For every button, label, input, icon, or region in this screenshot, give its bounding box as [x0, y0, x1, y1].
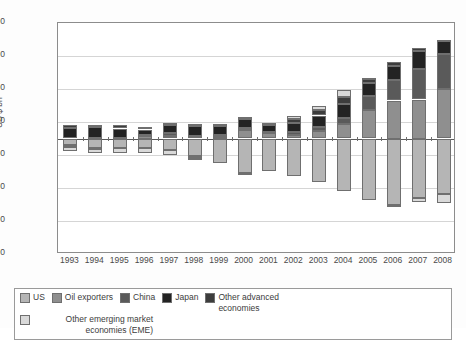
bar-segment: [262, 132, 276, 134]
legend-item[interactable]: Japan: [162, 292, 198, 303]
bar-segment: [387, 66, 401, 80]
bar-segment: [88, 149, 102, 154]
bar-group[interactable]: [88, 23, 102, 252]
bar-segment: [312, 131, 326, 139]
bar-segment: [188, 124, 202, 127]
bar-group[interactable]: [188, 23, 202, 252]
bar-segment: [312, 127, 326, 131]
bar-segment: [238, 139, 252, 173]
bar-segment: [387, 101, 401, 139]
bar-segment: [213, 124, 227, 126]
legend-swatch-icon: [20, 315, 30, 325]
plot-area: [57, 22, 455, 253]
bar-segment: [362, 83, 376, 97]
x-tick-mark: [133, 137, 134, 141]
x-tick-mark: [431, 137, 432, 141]
bar-group[interactable]: [387, 23, 401, 252]
y-tick-label: 1,000: [0, 49, 5, 59]
y-tick-label: -1,000: [0, 214, 5, 224]
bar-segment: [262, 125, 276, 132]
bar-segment: [387, 205, 401, 207]
bar-segment: [63, 128, 77, 139]
bar-group[interactable]: [437, 23, 451, 252]
x-tick-mark: [207, 137, 208, 141]
x-tick-label: 2006: [380, 255, 406, 265]
bar-segment: [412, 51, 426, 68]
bar-segment: [412, 198, 426, 203]
bar-group[interactable]: [412, 23, 426, 252]
bar-segment: [362, 78, 376, 80]
bar-group[interactable]: [113, 23, 127, 252]
bar-segment: [437, 89, 451, 138]
bar-segment: [437, 139, 451, 195]
bar-segment: [238, 130, 252, 138]
legend-item[interactable]: Other emerging market economies (EME): [20, 314, 153, 336]
legend-item[interactable]: China: [120, 292, 155, 303]
bar-group[interactable]: [238, 23, 252, 252]
bar-segment: [213, 126, 227, 136]
x-tick-mark: [282, 137, 283, 141]
x-tick-label: 2003: [305, 255, 331, 265]
legend-swatch-icon: [120, 293, 130, 303]
x-tick-label: 1993: [56, 255, 82, 265]
bar-segment: [312, 106, 326, 111]
x-tick-label: 2002: [280, 255, 306, 265]
x-tick-mark: [232, 137, 233, 141]
legend-swatch-icon: [162, 293, 172, 303]
bar-segment: [238, 117, 252, 119]
bar-segment: [312, 110, 326, 115]
x-tick-mark: [257, 137, 258, 141]
bar-segment: [113, 148, 127, 153]
bar-segment: [213, 135, 227, 137]
bar-group[interactable]: [362, 23, 376, 252]
bar-segment: [138, 130, 152, 135]
bar-group[interactable]: [138, 23, 152, 252]
bar-segment: [437, 40, 451, 42]
bar-segment: [287, 139, 301, 177]
bar-segment: [163, 136, 177, 138]
bar-group[interactable]: [163, 23, 177, 252]
bar-segment: [88, 138, 102, 140]
bar-segment: [113, 125, 127, 128]
bar-segment: [88, 125, 102, 128]
bar-group[interactable]: [213, 23, 227, 252]
x-tick-label: 2004: [330, 255, 356, 265]
bar-group[interactable]: [287, 23, 301, 252]
bar-segment: [262, 133, 276, 138]
legend-item[interactable]: Oil exporters: [52, 292, 113, 303]
bar-segment: [238, 173, 252, 175]
bar-segment: [188, 126, 202, 136]
y-tick-label: 600: [0, 82, 5, 92]
x-tick-label: 1994: [81, 255, 107, 265]
bar-segment: [63, 125, 77, 128]
x-tick-mark: [332, 137, 333, 141]
legend-item[interactable]: Other advanced economies: [205, 292, 314, 314]
bar-segment: [287, 116, 301, 119]
bar-segment: [63, 139, 77, 146]
x-tick-mark: [158, 137, 159, 141]
x-tick-label: 1995: [106, 255, 132, 265]
x-tick-label: 1997: [156, 255, 182, 265]
bar-segment: [362, 96, 376, 109]
x-tick-mark: [83, 137, 84, 141]
bar-segment: [163, 139, 177, 150]
bar-group[interactable]: [63, 23, 77, 252]
bar-segment: [337, 104, 351, 118]
bar-segment: [163, 125, 177, 133]
bar-group[interactable]: [312, 23, 326, 252]
x-tick-mark: [307, 137, 308, 141]
x-tick-label: 1998: [181, 255, 207, 265]
bar-segment: [287, 123, 301, 132]
bar-group[interactable]: [262, 23, 276, 252]
bar-group[interactable]: [337, 23, 351, 252]
y-tick-label: -600: [0, 181, 5, 191]
legend-item[interactable]: US: [20, 292, 45, 303]
bar-segment: [312, 116, 326, 127]
legend-item-label: Other advanced economies: [218, 292, 314, 314]
bar-segment: [238, 119, 252, 129]
bar-segment: [337, 124, 351, 139]
legend-swatch-icon: [205, 293, 215, 303]
y-tick-label: 1,400: [0, 16, 5, 26]
bar-segment: [88, 139, 102, 149]
